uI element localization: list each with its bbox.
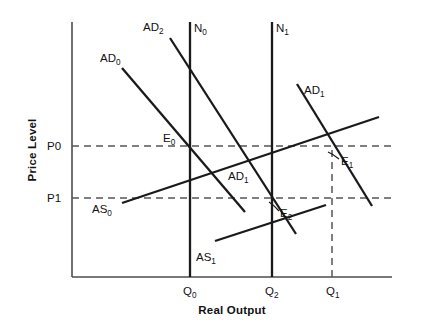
curve-label-ad1-mid: AD1 [228, 170, 249, 185]
x-axis-title: Real Output [198, 304, 265, 316]
x-tick-label-q0: Q0 [183, 285, 197, 300]
curve-label-as1: AS1 [196, 251, 216, 266]
curve-label-ad1-right: AD1 [304, 84, 325, 99]
economics-ad-as-diagram: AD0 AD2 AD1 AD1 AS0 AS1 N0 N1 E0 E1 E2 P… [0, 0, 436, 324]
curve-ad0-line [122, 68, 245, 212]
x-tick-label-q1: Q1 [326, 285, 340, 300]
axis-tick-labels-group: P0 P1 Q0 Q2 Q1 [47, 140, 340, 300]
curve-ad1-right-line [297, 84, 372, 206]
curve-label-ad0: AD0 [100, 52, 121, 67]
equilibrium-pointer-e1 [328, 152, 339, 159]
demand-supply-curves-group [122, 38, 379, 241]
y-axis-title: Price Level [26, 119, 38, 182]
diagram-canvas: AD0 AD2 AD1 AD1 AS0 AS1 N0 N1 E0 E1 E2 P… [0, 0, 436, 324]
curve-labels-group: AD0 AD2 AD1 AD1 AS0 AS1 N0 N1 [92, 21, 325, 266]
curve-label-as0: AS0 [92, 203, 112, 218]
equilibrium-label-e0: E0 [163, 132, 176, 147]
axis-titles-group: Price Level Real Output [26, 119, 266, 316]
x-tick-label-q2: Q2 [265, 285, 279, 300]
curve-label-ad2: AD2 [143, 21, 164, 36]
curve-label-n1: N1 [276, 22, 289, 37]
curve-label-n0: N0 [194, 22, 207, 37]
curve-as1-line [215, 205, 326, 241]
potential-output-lines-group [190, 22, 272, 277]
y-tick-label-p0: P0 [47, 140, 61, 152]
y-tick-label-p1: P1 [47, 192, 61, 204]
